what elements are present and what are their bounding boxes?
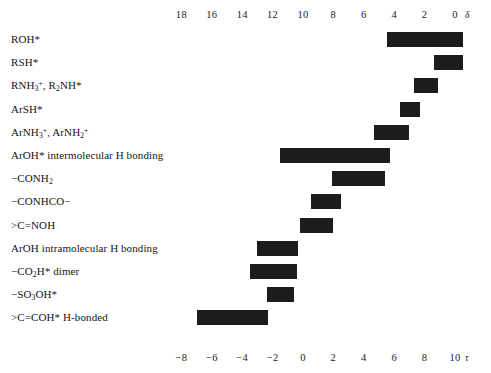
range-bar	[280, 148, 389, 163]
axis-bottom-tick-10: 10	[449, 351, 460, 365]
row-label: RSH*	[11, 51, 38, 74]
row-label: −SO3OH*	[11, 283, 57, 306]
chart-row: RSH*	[0, 51, 491, 74]
row-label: ArOH intramolecular H bonding	[11, 237, 158, 260]
chart-row: ArSH*	[0, 98, 491, 121]
row-label: −CO2H* dimer	[11, 260, 79, 283]
row-label: RNH3+, R2NH*	[11, 74, 82, 97]
range-bar	[267, 287, 294, 302]
range-bar	[250, 264, 297, 279]
axis-top-delta: 181614121086420δ	[0, 8, 491, 22]
axis-top-tick-10: 10	[297, 8, 308, 22]
chart-row: ArOH intramolecular H bonding	[0, 237, 491, 260]
range-bar	[374, 125, 409, 140]
axis-bottom-tick-4: 4	[361, 351, 367, 365]
row-label: −CONH2	[11, 167, 53, 190]
axis-bottom-tick--4: −4	[236, 351, 248, 365]
range-bar	[332, 171, 385, 186]
axis-bottom-tau: −8−6−4−20246810τ	[0, 351, 491, 365]
axis-top-tick-16: 16	[206, 8, 217, 22]
axis-top-tick-8: 8	[331, 8, 337, 22]
chart-row: −CO2H* dimer	[0, 260, 491, 283]
range-bar	[257, 241, 298, 256]
row-label: >C=NOH	[11, 214, 55, 237]
chemical-shift-range-chart: 181614121086420δ ROH*RSH*RNH3+, R2NH*ArS…	[0, 0, 491, 373]
axis-bottom-tick--2: −2	[267, 351, 279, 365]
chart-row: −CONH2	[0, 167, 491, 190]
range-bar	[300, 218, 333, 233]
chart-row: RNH3+, R2NH*	[0, 74, 491, 97]
range-bar	[311, 194, 341, 209]
axis-bottom-tick-2: 2	[331, 351, 337, 365]
chart-row: >C=COH* H-bonded	[0, 306, 491, 329]
range-bar	[434, 55, 463, 70]
axis-bottom-tick-6: 6	[391, 351, 397, 365]
row-label: ArSH*	[11, 98, 43, 121]
axis-top-tick-4: 4	[391, 8, 397, 22]
axis-top-tick-18: 18	[176, 8, 187, 22]
axis-bottom-unit-tau: τ	[465, 351, 468, 365]
chart-row: ArNH3+, ArNH2+	[0, 121, 491, 144]
row-label: −CONHCO−	[11, 190, 71, 213]
range-bar	[400, 102, 420, 117]
axis-bottom-tick--8: −8	[176, 351, 188, 365]
row-label: ArOH* intermolecular H bonding	[11, 144, 163, 167]
row-label: ROH*	[11, 28, 40, 51]
range-bar	[387, 32, 463, 47]
axis-top-tick-12: 12	[267, 8, 278, 22]
axis-top-unit-delta: δ	[465, 8, 469, 22]
row-label: >C=COH* H-bonded	[11, 306, 108, 329]
range-bar	[414, 78, 438, 93]
row-label: ArNH3+, ArNH2+	[11, 121, 89, 144]
axis-top-tick-2: 2	[422, 8, 428, 22]
chart-row: −CONHCO−	[0, 190, 491, 213]
chart-row: −SO3OH*	[0, 283, 491, 306]
axis-bottom-tick-0: 0	[300, 351, 306, 365]
axis-top-tick-6: 6	[361, 8, 367, 22]
axis-top-tick-0: 0	[452, 8, 458, 22]
chart-row: ArOH* intermolecular H bonding	[0, 144, 491, 167]
chart-row: >C=NOH	[0, 214, 491, 237]
axis-bottom-tick-8: 8	[422, 351, 428, 365]
axis-bottom-tick--6: −6	[206, 351, 218, 365]
axis-top-tick-14: 14	[237, 8, 248, 22]
chart-row: ROH*	[0, 28, 491, 51]
range-bar	[197, 310, 268, 325]
